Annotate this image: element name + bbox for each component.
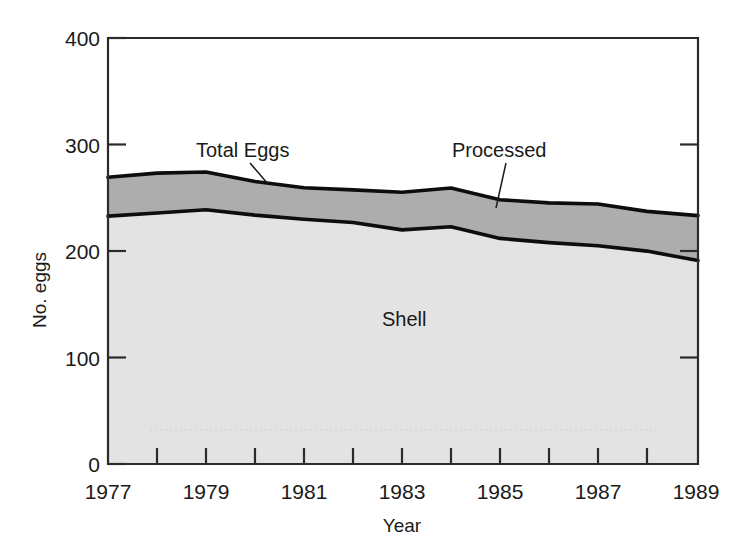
egg-production-area-chart: 400 300 200 100 0 1977 1979 1981 1983 19…	[0, 0, 746, 560]
y-tick-label-200: 200	[65, 240, 100, 263]
x-tick-label-1987: 1987	[575, 480, 622, 503]
x-axis-title: Year	[383, 515, 422, 536]
y-tick-label-100: 100	[65, 347, 100, 370]
x-tick-label-1977: 1977	[85, 480, 132, 503]
label-processed: Processed	[452, 139, 547, 161]
x-tick-label-1981: 1981	[281, 480, 328, 503]
x-tick-label-1985: 1985	[477, 480, 524, 503]
y-tick-label-400: 400	[65, 27, 100, 50]
label-shell: Shell	[382, 308, 426, 330]
y-tick-label-300: 300	[65, 134, 100, 157]
x-tick-label-1983: 1983	[379, 480, 426, 503]
x-tick-label-1979: 1979	[183, 480, 230, 503]
y-tick-label-0: 0	[88, 453, 100, 476]
x-tick-label-1989: 1989	[673, 480, 720, 503]
y-axis-title: No. eggs	[29, 252, 50, 328]
label-total-eggs: Total Eggs	[196, 139, 289, 161]
